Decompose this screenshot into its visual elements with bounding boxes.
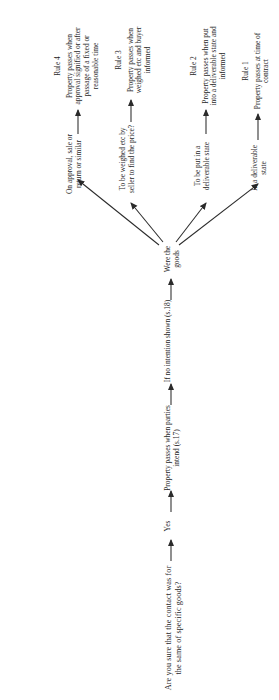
rule3-name: Rule 3 <box>115 20 124 100</box>
rule2-text: Property passes when put into a delivera… <box>202 22 228 110</box>
branch-condition-rule3: To be weighed etc by seller to find the … <box>119 121 136 197</box>
diagram-stage: Are you sure that the contact was for th… <box>0 0 279 700</box>
rule1-text: Property passes at time of contract <box>254 28 271 114</box>
rule3-text: Property passes when weighed etc and buy… <box>127 20 153 100</box>
rule4-text: Property passes when approval signified … <box>66 22 101 110</box>
rule2-name: Rule 2 <box>190 22 199 110</box>
chain-node-yes: Yes <box>164 513 173 539</box>
decision-node-were-the-goods: Were the goods <box>164 238 181 280</box>
chain-node-s17: Property passes when parties intend (s.1… <box>164 404 181 492</box>
branch-outcome-rule2: Rule 2 Property passes when put into a d… <box>190 22 228 110</box>
branch-condition-rule1: In a deliverable state <box>251 138 268 198</box>
branch-condition-rule2: To be put in a deliverable state <box>194 132 211 200</box>
branch-outcome-rule3: Rule 3 Property passes when weighed etc … <box>115 20 153 100</box>
connector-layer <box>0 0 279 700</box>
chain-node-s18: If no intention shown (s.18) <box>164 299 173 383</box>
rule4-name: Rule 4 <box>54 22 63 110</box>
flowchart-canvas: Are you sure that the contact was for th… <box>0 0 279 700</box>
branch-outcome-rule1: Rule 1 Property passes at time of contra… <box>242 28 271 114</box>
branch-condition-rule4: On approval, sale or return or similar <box>66 131 83 197</box>
rule1-name: Rule 1 <box>242 28 251 114</box>
branch-outcome-rule4: Rule 4 Property passes when approval sig… <box>54 22 101 110</box>
diagram-title: Are you sure that the contact was for th… <box>164 562 183 694</box>
